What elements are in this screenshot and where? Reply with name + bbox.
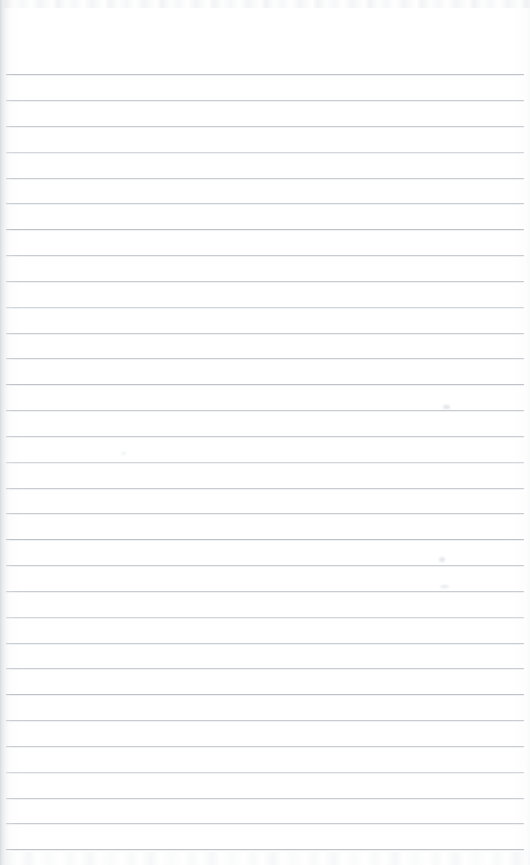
rule-line-30 — [6, 823, 524, 824]
rule-line-20 — [6, 565, 524, 566]
rule-line-24 — [6, 668, 524, 669]
rule-line-18 — [6, 513, 524, 514]
rule-line-22 — [6, 617, 524, 618]
rule-line-10 — [6, 307, 524, 308]
rule-line-21 — [6, 591, 524, 592]
rule-line-26 — [6, 720, 524, 721]
rule-line-7 — [6, 229, 524, 230]
rule-line-29 — [6, 798, 524, 799]
rule-line-4 — [6, 152, 524, 153]
rule-line-19 — [6, 539, 524, 540]
rule-line-5 — [6, 178, 524, 179]
rule-line-9 — [6, 281, 524, 282]
rule-line-3 — [6, 126, 524, 127]
rule-line-6 — [6, 203, 524, 204]
rule-line-27 — [6, 746, 524, 747]
rule-line-17 — [6, 488, 524, 489]
rule-line-11 — [6, 333, 524, 334]
rule-line-28 — [6, 772, 524, 773]
rule-line-16 — [6, 462, 524, 463]
rule-line-31 — [6, 849, 524, 850]
rule-line-8 — [6, 255, 524, 256]
ruled-lines-layer — [0, 0, 530, 865]
rule-line-12 — [6, 358, 524, 359]
rule-line-25 — [6, 694, 524, 695]
scanned-notebook-page: Blank Lined Notebook Page — [0, 0, 530, 865]
rule-line-14 — [6, 410, 524, 411]
rule-line-1 — [6, 74, 524, 75]
rule-line-2 — [6, 100, 524, 101]
rule-line-13 — [6, 384, 524, 385]
rule-line-23 — [6, 643, 524, 644]
rule-line-15 — [6, 436, 524, 437]
